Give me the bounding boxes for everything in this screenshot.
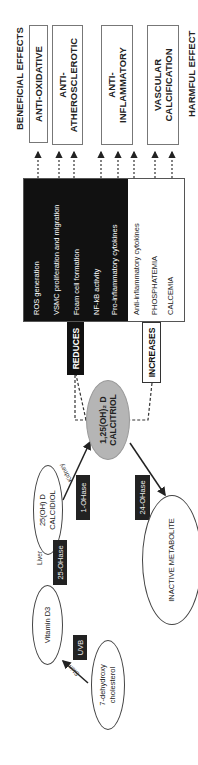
reduces-item: NF-kB activity (92, 269, 101, 315)
reduces-item: ROS generation (32, 261, 41, 315)
one-ohase-enzyme: 1-OHase (76, 475, 90, 520)
reduces-item: Pro-inflammatory cytokines (110, 225, 119, 315)
calcidiol-name: CALCIDIOL (48, 490, 58, 530)
reduces-panel: ROS generation VSMC proliferation and mi… (24, 179, 128, 321)
effect-anti-atherosclerotic: ANTI- ATHEROSCLEROTIC (52, 25, 83, 145)
calcitriol-node: 1,25(OH)₂ D CALCITRIOL (86, 380, 130, 460)
increases-item: PHOSPHATEMIA (150, 256, 159, 315)
liver-label: Liver (36, 551, 43, 565)
vitamin-d-pathway-diagram: BENEFICIAL EFFECTS HARMFUL EFFECT ANTI-O… (0, 0, 198, 765)
calcitriol-name: CALCITRIOL (108, 394, 118, 445)
calcitriol-formula: 1,25(OH)₂ D (98, 396, 108, 443)
reduces-tag: REDUCES (67, 322, 84, 375)
vitamin-d3-node: Vitamin D3 (32, 585, 63, 665)
twentyfour-ohase-enzyme: 24-OHase (135, 475, 150, 520)
increases-item: Anti-inflammatory cytokines (132, 223, 141, 315)
effects-mechanism-box: ROS generation VSMC proliferation and mi… (23, 178, 185, 322)
effect-vascular-calcification: VASCULAR CALCIFICATION (147, 25, 179, 145)
effect-anti-inflammatory: ANTI- INFLAMMATORY (101, 25, 133, 145)
calcidiol-formula: 25(OH) D (38, 494, 48, 526)
dehydroxy-line2: cholesterol (108, 667, 118, 703)
reduces-item: VSMC proliferation and migration (52, 205, 61, 315)
effect-anti-oxidative: ANTI-OXIDATIVE (29, 25, 48, 143)
dehydroxy-line1: 7-dehydroxy (98, 664, 108, 705)
increases-panel: Anti-inflammatory cytokines PHOSPHATEMIA… (128, 179, 184, 321)
increases-item: CALCEMIA (166, 277, 175, 315)
inactive-metabolite-node: INACTIVE METABOLITE (142, 495, 198, 625)
uvb-enzyme: UVB (73, 635, 87, 660)
dehydroxy-cholesterol-node: 7-dehydroxy cholesterol (91, 640, 125, 730)
beneficial-effects-label: BENEFICIAL EFFECTS (14, 27, 25, 130)
twentyfive-ohase-enzyme: 25-OHase (53, 540, 67, 585)
harmful-effect-label: HARMFUL EFFECT (186, 31, 197, 117)
reduces-item: Foam cell formation (72, 249, 81, 315)
increases-tag: INCREASES (142, 322, 161, 383)
